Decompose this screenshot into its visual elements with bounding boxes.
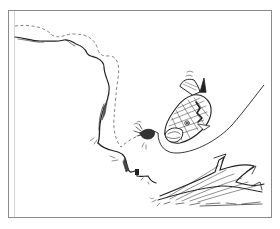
illustration (0, 0, 280, 229)
illustration-canvas (0, 0, 280, 229)
